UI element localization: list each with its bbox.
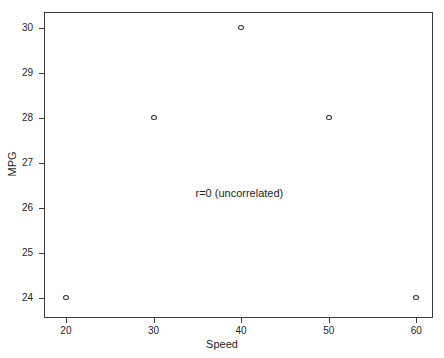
x-axis-label: Speed xyxy=(0,338,444,350)
y-axis-tick-label: 24 xyxy=(3,292,33,304)
data-point xyxy=(151,115,157,120)
correlation-annotation: r=0 (uncorrelated) xyxy=(17,187,444,199)
x-axis-tick-label: 20 xyxy=(46,325,86,337)
x-axis-tick xyxy=(329,318,330,323)
y-axis-tick-label: 26 xyxy=(3,202,33,214)
scatter-plot-figure: MPG Speed r=0 (uncorrelated) 20304050602… xyxy=(0,0,444,358)
y-axis-tick xyxy=(39,163,44,164)
y-axis-tick-label: 30 xyxy=(3,22,33,34)
x-axis-tick xyxy=(154,318,155,323)
y-axis-tick xyxy=(39,208,44,209)
y-axis-tick xyxy=(39,253,44,254)
x-axis-tick-label: 50 xyxy=(309,325,349,337)
y-axis-tick xyxy=(39,118,44,119)
plot-area xyxy=(44,12,433,318)
x-axis-tick xyxy=(66,318,67,323)
y-axis-tick-label: 29 xyxy=(3,67,33,79)
x-axis-tick xyxy=(241,318,242,323)
x-axis-tick-label: 40 xyxy=(221,325,261,337)
x-axis-tick-label: 60 xyxy=(396,325,436,337)
y-axis-tick-label: 27 xyxy=(3,157,33,169)
y-axis-tick xyxy=(39,298,44,299)
y-axis-tick xyxy=(39,73,44,74)
y-axis-tick xyxy=(39,28,44,29)
plot-title xyxy=(0,0,444,2)
x-axis-tick-label: 30 xyxy=(134,325,174,337)
y-axis-tick-label: 28 xyxy=(3,112,33,124)
y-axis-tick-label: 25 xyxy=(3,247,33,259)
x-axis-tick xyxy=(416,318,417,323)
